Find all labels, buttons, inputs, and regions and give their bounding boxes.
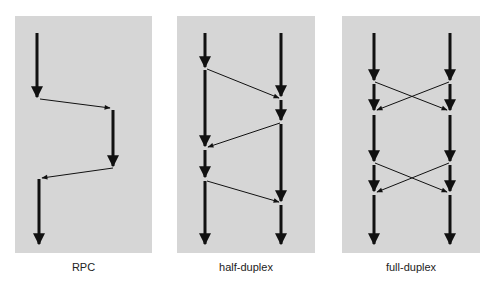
full-duplex-message-arrow <box>377 82 449 110</box>
timeline-arrows <box>37 33 450 244</box>
half-duplex-message-arrow <box>207 69 279 98</box>
rpc-message-arrow <box>40 99 110 108</box>
full-duplex-message-arrow <box>377 163 449 192</box>
full-duplex-message-arrow <box>375 82 447 110</box>
label-rpc: RPC <box>15 261 152 273</box>
half-duplex-message-arrow <box>208 123 280 147</box>
label-full-duplex: full-duplex <box>342 261 480 273</box>
half-duplex-message-arrow <box>207 181 279 202</box>
full-duplex-message-arrow <box>375 163 447 192</box>
rpc-message-arrow <box>42 168 113 178</box>
label-half-duplex: half-duplex <box>177 261 315 273</box>
message-arrows <box>40 69 449 202</box>
sequence-diagrams <box>0 0 496 287</box>
